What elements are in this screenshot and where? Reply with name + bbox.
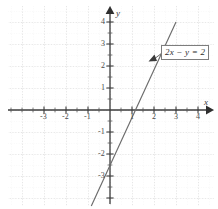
x-axis-label: x: [204, 98, 208, 107]
y-axis-label: y: [116, 9, 120, 18]
x-tick-label-pos4: 4: [196, 113, 200, 121]
x-tick-label-pos2: 2: [152, 113, 156, 121]
y-tick-label-pos4: 4: [101, 18, 105, 26]
x-tick-label-pos3: 3: [174, 113, 178, 121]
y-tick-label-pos2: 2: [101, 62, 105, 70]
x-tick-label-pos1: 1: [130, 113, 134, 121]
equation-callout-label: 2x − y = 2: [161, 45, 209, 60]
coordinate-plane-figure: -3 -2 -1 1 2 3 4 4 3 2 1 -1 -2 -3 x y 2x…: [0, 0, 218, 209]
x-tick-label-neg3: -3: [40, 113, 47, 121]
x-tick-label-neg2: -2: [62, 113, 69, 121]
graph-canvas: [0, 0, 218, 209]
y-tick-label-pos1: 1: [101, 84, 105, 92]
y-tick-label-neg2: -2: [98, 150, 105, 158]
y-tick-label-neg3: -3: [98, 172, 105, 180]
x-tick-label-neg1: -1: [84, 113, 91, 121]
y-tick-label-neg1: -1: [98, 128, 105, 136]
y-tick-label-pos3: 3: [101, 40, 105, 48]
